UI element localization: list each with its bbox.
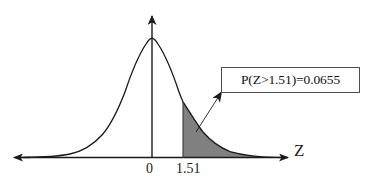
axis-label-z: Z	[294, 142, 304, 159]
shaded-tail-region	[183, 102, 290, 158]
probability-callout-text: P(Z>1.51)=0.0655	[241, 72, 340, 88]
tick-label-zero: 0	[146, 162, 153, 176]
probability-callout-box: P(Z>1.51)=0.0655	[221, 67, 360, 93]
tick-label-threshold: 1.51	[176, 162, 201, 176]
callout-leader-arrow	[196, 92, 222, 132]
normal-distribution-figure: 0 1.51 Z P(Z>1.51)=0.0655	[0, 0, 369, 190]
normal-curve-path	[24, 38, 286, 157]
